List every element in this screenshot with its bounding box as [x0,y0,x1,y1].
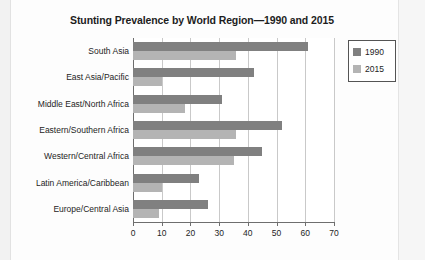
category-label: Western/Central Africa [44,151,129,161]
x-axis-tick-label: 70 [324,228,344,238]
x-axis-tick-label: 20 [180,228,200,238]
bar-2015 [133,156,234,165]
chart-legend: 19902015 [348,40,396,82]
bar-2015 [133,209,159,218]
bar-1990 [133,147,262,156]
x-axis-tick-label: 60 [295,228,315,238]
legend-item-2015: 2015 [353,64,384,74]
category-label: Middle East/North Africa [38,99,129,109]
gridline [334,38,335,222]
category-axis-labels: South AsiaEast Asia/PacificMiddle East/N… [0,38,129,222]
chart-title: Stunting Prevalence by World Region—1990… [47,14,357,26]
x-axis-tick [219,223,220,226]
category-label: South Asia [88,46,129,56]
bar-2015 [133,130,236,139]
x-axis-tick [190,223,191,226]
legend-label: 1990 [365,47,384,57]
bar-2015 [133,183,162,192]
x-axis-tick-label: 0 [123,228,143,238]
bar-2015 [133,51,236,60]
category-label: Eastern/Southern Africa [39,125,129,135]
category-label: Latin America/Caribbean [36,178,129,188]
x-axis-tick-label: 10 [152,228,172,238]
x-axis-tick [305,223,306,226]
bar-1990 [133,95,222,104]
category-label: Europe/Central Asia [53,204,129,214]
legend-swatch-icon [353,48,361,56]
bar-1990 [133,42,308,51]
bar-1990 [133,174,199,183]
gridline [305,38,306,222]
bar-2015 [133,77,162,86]
legend-swatch-icon [353,65,361,73]
x-axis-tick [133,223,134,226]
x-axis-tick-label: 40 [238,228,258,238]
chart-page: Stunting Prevalence by World Region—1990… [0,0,425,260]
x-axis-tick-label: 50 [267,228,287,238]
x-axis-tick [248,223,249,226]
gridline [248,38,249,222]
page-right-margin [399,0,425,260]
x-axis-tick [162,223,163,226]
bar-1990 [133,200,208,209]
legend-item-1990: 1990 [353,47,384,57]
bar-1990 [133,121,282,130]
bar-2015 [133,104,185,113]
x-axis-tick [277,223,278,226]
legend-label: 2015 [365,64,384,74]
x-axis-tick-label: 30 [209,228,229,238]
plot-area: 010203040506070 [133,38,334,222]
category-label: East Asia/Pacific [66,72,129,82]
gridline [277,38,278,222]
x-axis-tick [334,223,335,226]
bar-1990 [133,68,254,77]
